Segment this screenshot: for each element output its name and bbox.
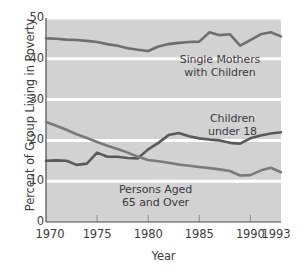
poverty-rate-line-chart: 01020304050 197019751980198519901993 Per… — [0, 0, 302, 270]
y-tick-label: 0 — [0, 216, 44, 228]
series-label-line-1: Children — [190, 112, 275, 125]
x-tick-label: 1975 — [83, 228, 112, 240]
series-label-line-2: 65 and Over — [98, 196, 213, 209]
y-tick-label: 30 — [0, 94, 44, 106]
y-axis-label: Percent of Group Living in Poverty — [23, 10, 37, 220]
series-line-0 — [46, 32, 281, 51]
x-tick-label: 1990 — [236, 228, 265, 240]
y-tick-label: 50 — [0, 12, 44, 24]
series-label-persons-65-and-over: Persons Aged 65 and Over — [98, 183, 213, 209]
series-label-children-under-18: Children under 18 — [190, 112, 275, 138]
series-label-line-2: with Children — [165, 66, 275, 79]
axis-tickmarks — [97, 215, 250, 222]
y-tick-label: 20 — [0, 134, 44, 146]
series-label-line-2: under 18 — [190, 125, 275, 138]
x-tick-label: 1970 — [36, 228, 65, 240]
x-tick-label: 1980 — [134, 228, 163, 240]
series-label-line-1: Single Mothers — [165, 53, 275, 66]
x-axis-label: Year — [46, 249, 281, 263]
series-label-line-1: Persons Aged — [98, 183, 213, 196]
series-label-single-mothers: Single Mothers with Children — [165, 53, 275, 79]
x-tick-label: 1993 — [262, 228, 291, 240]
x-tick-label: 1985 — [185, 228, 214, 240]
y-tick-label: 40 — [0, 53, 44, 65]
y-tick-label: 10 — [0, 175, 44, 187]
